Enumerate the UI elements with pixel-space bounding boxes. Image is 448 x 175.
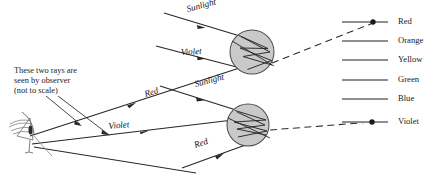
legend-label-green: Green [398, 74, 419, 84]
observer-arm [34, 136, 52, 156]
upper-raindrop-group [30, 13, 373, 136]
callout-arrowhead-1 [74, 121, 82, 127]
sightline-lower-dashed [270, 122, 372, 130]
observer-note-line-3: (not to scale) [14, 86, 77, 96]
legend-label-yellow: Yellow [398, 54, 422, 64]
observer-note-line-2: seen by observer [14, 76, 77, 86]
ray-violet-lower [32, 118, 250, 144]
legend-label-blue: Blue [398, 93, 414, 103]
observer-note-line-1: These two rays are [14, 66, 77, 76]
rainbow-ray-diagram: These two rays are seen by observer (not… [0, 0, 448, 175]
spectrum-legend-bars [342, 19, 388, 124]
observer-legs [25, 140, 33, 153]
label-violet-lower: Violet [108, 119, 130, 131]
ray-lower-extra [34, 147, 196, 173]
ray-sunlight-upper [164, 13, 240, 36]
observer-figure [9, 112, 52, 156]
sightline-upper-dashed [272, 23, 373, 63]
legend-label-red: Red [398, 16, 412, 26]
label-violet-upper: Violet [180, 46, 201, 57]
legend-dot-red [370, 19, 375, 24]
observer-face-shade [29, 125, 33, 134]
legend-label-orange: Orange [398, 35, 423, 45]
lower-raindrop-group [32, 86, 372, 173]
legend-label-violet: Violet [398, 116, 419, 126]
observer-note-block: These two rays are seen by observer (not… [14, 66, 77, 97]
legend-dot-violet [369, 119, 374, 124]
ray-sunlight-lower [160, 86, 236, 110]
